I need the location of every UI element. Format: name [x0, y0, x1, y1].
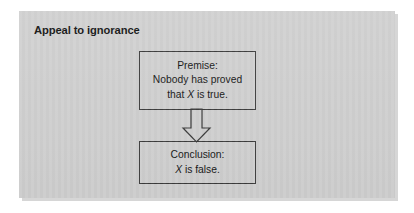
conclusion-line-2-after: is false.: [182, 164, 220, 175]
figure-panel: Appeal to ignorance Premise: Nobody has …: [19, 11, 395, 198]
premise-line-1: Premise:: [177, 59, 218, 73]
premise-line-3: that X is true.: [167, 88, 228, 102]
figure-title: Appeal to ignorance: [34, 24, 140, 36]
conclusion-line-1: Conclusion:: [171, 148, 225, 162]
premise-line-3-after: is true.: [194, 89, 228, 100]
down-arrow-icon: [181, 109, 212, 142]
premise-line-3-before: that: [167, 89, 187, 100]
premise-box: Premise: Nobody has proved that X is tru…: [139, 51, 256, 110]
conclusion-box: Conclusion: X is false.: [139, 141, 256, 184]
premise-line-2: Nobody has proved: [153, 73, 242, 87]
conclusion-line-2: X is false.: [175, 163, 220, 177]
